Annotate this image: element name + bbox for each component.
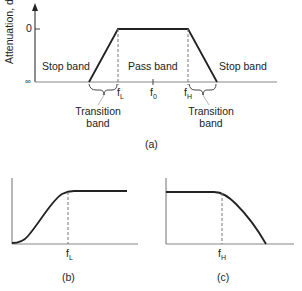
caption-b: (b): [62, 271, 75, 283]
y-axis-label: Attenuation, dB: [3, 0, 15, 64]
transition-brace-left: [89, 84, 117, 95]
f-low-label-b: fL: [66, 247, 73, 261]
f-low-label: fL: [117, 86, 124, 100]
lowpass-response-curve: [166, 192, 266, 244]
bandpass-response-curve: [89, 29, 217, 82]
figure-b-axes: [12, 178, 138, 244]
transition-band-left-label: Transitionband: [75, 105, 121, 129]
transition-brace-right: [189, 84, 216, 95]
f-center-label: f0: [150, 86, 157, 100]
transition-band-right-label: Transitionband: [188, 105, 234, 129]
stop-band-left-label: Stop band: [42, 60, 90, 72]
stop-band-right-label: Stop band: [219, 60, 267, 72]
highpass-response-curve: [12, 191, 127, 243]
caption-c: (c): [217, 271, 229, 283]
y-tick-zero: 0: [26, 22, 32, 34]
y-axis-arrow-icon: [32, 3, 38, 11]
pass-band-label: Pass band: [128, 60, 178, 72]
figure-a-axes: [32, 3, 277, 85]
caption-a: (a): [145, 138, 158, 150]
f-high-label: fH: [184, 86, 192, 100]
figure-c-axes: [166, 178, 294, 244]
f-high-label-c: fH: [218, 247, 226, 261]
y-tick-infinity: ∞: [25, 76, 31, 88]
